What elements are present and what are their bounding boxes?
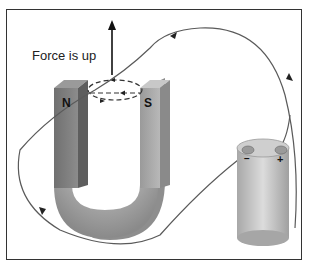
battery-negative-label: − — [244, 153, 250, 164]
south-pole-label: S — [144, 96, 152, 110]
horseshoe-magnet — [54, 78, 170, 240]
diagram-canvas — [0, 0, 310, 265]
north-pole-label: N — [62, 96, 71, 110]
battery-positive-label: + — [277, 153, 283, 165]
force-label: Force is up — [32, 48, 96, 63]
